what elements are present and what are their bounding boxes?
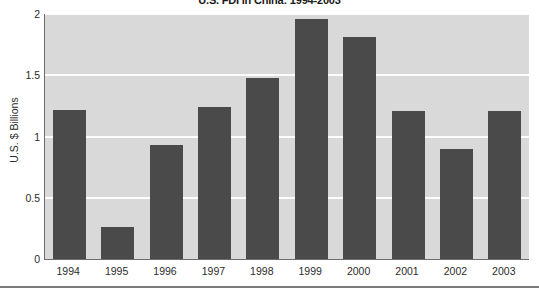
x-axis-tick-labels: 1994199519961997199819992000200120022003 bbox=[44, 264, 528, 280]
bar bbox=[343, 37, 376, 259]
bar bbox=[198, 107, 231, 259]
x-tick-label: 2001 bbox=[383, 264, 431, 278]
x-tick-label: 2002 bbox=[431, 264, 479, 278]
bar bbox=[53, 110, 86, 259]
bar bbox=[150, 145, 183, 259]
x-tick-label: 2000 bbox=[334, 264, 382, 278]
y-tick-label: 1.5 bbox=[4, 69, 40, 81]
x-tick-label: 1997 bbox=[189, 264, 237, 278]
x-tick-label: 2003 bbox=[480, 264, 528, 278]
x-tick-label: 1998 bbox=[238, 264, 286, 278]
bar bbox=[488, 111, 521, 259]
x-tick-label: 1994 bbox=[44, 264, 92, 278]
bar-chart: U.S. FDI in China: 1994-2003 U.S. $ Bill… bbox=[0, 0, 539, 288]
bar bbox=[295, 19, 328, 259]
y-tick-label: 2 bbox=[4, 8, 40, 20]
bar bbox=[440, 149, 473, 259]
plot-area bbox=[44, 14, 529, 260]
y-tick-label: 1 bbox=[4, 131, 40, 143]
x-tick-label: 1996 bbox=[141, 264, 189, 278]
bar bbox=[392, 111, 425, 259]
bar bbox=[101, 227, 134, 259]
bar bbox=[246, 78, 279, 259]
bars-group bbox=[45, 14, 529, 259]
chart-title: U.S. FDI in China: 1994-2003 bbox=[0, 0, 539, 7]
y-tick-label: 0 bbox=[4, 253, 40, 265]
y-axis-tick-labels: 00.511.52 bbox=[0, 0, 40, 288]
y-tick-label: 0.5 bbox=[4, 192, 40, 204]
x-tick-label: 1999 bbox=[286, 264, 334, 278]
x-tick-label: 1995 bbox=[92, 264, 140, 278]
